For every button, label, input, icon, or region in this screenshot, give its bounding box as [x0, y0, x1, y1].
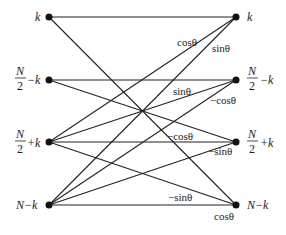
node-right-n-minus-k — [233, 202, 240, 209]
node-left-n2-minus-k — [46, 77, 53, 84]
label-right-n-minus-k: N−k — [246, 198, 269, 212]
diagram-canvas: k N 2 −k N 2 +k N−k k N 2 −k N 2 +k N−k … — [0, 0, 286, 235]
label-right-k: k — [247, 10, 253, 24]
node-left-n-minus-k — [46, 202, 53, 209]
label-left-n-minus-k: N−k — [15, 198, 38, 212]
weight-sin-theta-mid: sinθ — [173, 85, 191, 97]
label-right-n2-plus-k-suffix: +k — [260, 136, 274, 150]
weight-neg-sin-theta-bot: −sinθ — [168, 191, 192, 203]
label-left-k: k — [35, 10, 41, 24]
node-right-k — [233, 14, 240, 21]
right-labels: k N 2 −k N 2 +k N−k — [246, 10, 274, 212]
label-right-n2-minus-k-suffix: −k — [260, 73, 274, 87]
label-right-n2-plus-k-num: N — [247, 127, 257, 141]
weight-cos-theta-top: cosθ — [177, 36, 197, 48]
label-left-n2-plus-k-suffix: +k — [27, 136, 41, 150]
label-left-n2-plus-k-den: 2 — [17, 142, 23, 156]
label-right-n2-minus-k-num: N — [247, 64, 257, 78]
label-left-n2-minus-k-den: 2 — [17, 79, 23, 93]
weight-sin-theta-top: sinθ — [212, 42, 230, 54]
edges — [49, 17, 236, 205]
weight-neg-cos-theta-mid: −cosθ — [210, 94, 236, 106]
label-left-n2-minus-k-suffix: −k — [27, 73, 41, 87]
label-right-n2-plus-k-den: 2 — [249, 142, 255, 156]
label-left-n2-plus-k-num: N — [15, 127, 25, 141]
left-labels: k N 2 −k N 2 +k N−k — [15, 10, 41, 212]
butterfly-diagram: k N 2 −k N 2 +k N−k k N 2 −k N 2 +k N−k … — [0, 0, 286, 235]
weight-cos-theta-bot: cosθ — [214, 210, 234, 222]
label-left-n2-minus-k-num: N — [15, 64, 25, 78]
node-left-n2-plus-k — [46, 139, 53, 146]
weight-neg-cos-theta-low: −cosθ — [167, 130, 193, 142]
node-left-k — [46, 14, 53, 21]
weight-neg-sin-theta-low: −sinθ — [208, 145, 232, 157]
node-right-n2-plus-k — [233, 139, 240, 146]
node-right-n2-minus-k — [233, 77, 240, 84]
label-right-n2-minus-k-den: 2 — [249, 79, 255, 93]
